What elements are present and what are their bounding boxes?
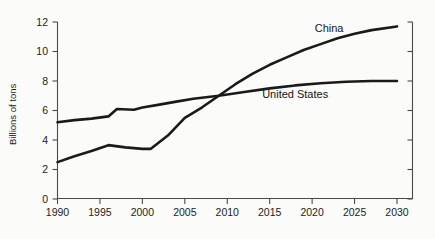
x-tick-label: 1995	[88, 206, 112, 218]
y-tick-marks	[53, 22, 58, 199]
line-chart: 024681012 199019952000200520102015202020…	[0, 0, 435, 239]
x-tick-label: 1990	[46, 206, 70, 218]
y-tick-label: 8	[42, 75, 48, 87]
data-series-group	[58, 26, 398, 162]
x-tick-marks	[58, 199, 398, 205]
chart-container: 024681012 199019952000200520102015202020…	[0, 0, 435, 239]
series-line-united-states	[58, 81, 398, 122]
y-tick-label: 12	[36, 16, 48, 28]
x-tick-label: 2015	[258, 206, 282, 218]
x-tick-label: 2030	[385, 206, 409, 218]
x-tick-labels: 199019952000200520102015202020252030	[46, 206, 409, 218]
x-tick-label: 2025	[343, 206, 367, 218]
y-tick-label: 10	[36, 45, 48, 57]
y-tick-label: 4	[42, 134, 48, 146]
y-tick-labels: 024681012	[36, 16, 48, 205]
series-label-china: China	[315, 22, 345, 34]
y-tick-label: 2	[42, 163, 48, 175]
y-axis-title: Billions of tons	[7, 83, 18, 145]
x-tick-label: 2010	[216, 206, 240, 218]
x-tick-label: 2020	[300, 206, 324, 218]
y-tick-label: 6	[42, 104, 48, 116]
series-annotations: ChinaUnited States	[262, 22, 344, 100]
series-label-united-states: United States	[262, 88, 329, 100]
y-tick-marks-right	[408, 22, 413, 199]
y-tick-label: 0	[42, 193, 48, 205]
x-tick-label: 2005	[173, 206, 197, 218]
x-tick-label: 2000	[131, 206, 155, 218]
